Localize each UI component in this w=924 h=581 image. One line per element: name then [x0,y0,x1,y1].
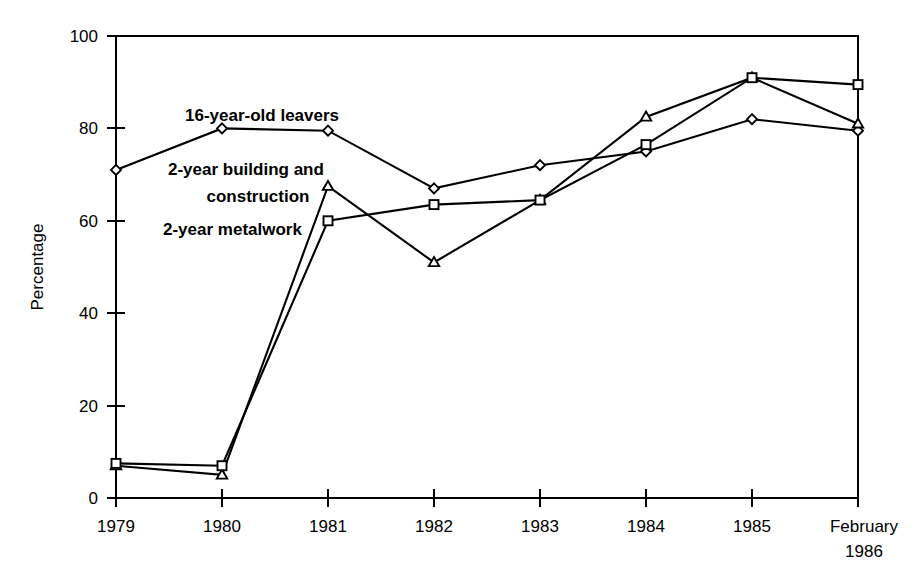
x-tick-label-1984: 1984 [627,517,665,536]
y-tick-label-100: 100 [70,27,98,46]
data-point-triangle-1984 [641,112,651,121]
annotation-2-year-metalwork: 2-year metalwork [163,220,302,239]
x-tick-label-february-1986-year: 1986 [845,542,883,561]
y-tick-label-80: 80 [79,119,98,138]
data-point-diamond-1982 [429,183,439,193]
chart-container: 0 20 40 60 80 100 Percentage 1979 1980 1… [0,0,924,581]
data-point-square-1982 [430,200,439,209]
data-point-square-1981 [324,216,333,225]
x-tick-label-1979: 1979 [97,517,135,536]
y-tick-label-60: 60 [79,212,98,231]
series-markers-2-year-building-and-construction [111,72,863,478]
annotation-2-year-building-and-line2: construction [207,187,310,206]
data-point-square-1983 [536,196,545,205]
data-point-diamond-1981 [323,126,333,136]
series-annotations: 16-year-old leavers 2-year building and … [163,106,339,239]
series-2-year-building-and-construction [111,72,863,478]
data-point-square-1979 [112,459,121,468]
y-axis-title: Percentage [28,224,47,311]
data-point-square-1985 [748,73,757,82]
data-point-diamond-1979 [111,165,121,175]
series-2-year-metalwork [112,73,863,470]
x-tick-label-1980: 1980 [203,517,241,536]
data-point-triangle-february-1986 [853,119,863,128]
data-point-square-february-1986 [854,80,863,89]
data-point-square-1984 [642,140,651,149]
data-point-diamond-1983 [535,160,545,170]
x-tick-label-1982: 1982 [415,517,453,536]
x-tick-label-february-1986: February [830,517,899,536]
x-tick-label-1985: 1985 [733,517,771,536]
y-tick-label-0: 0 [89,489,98,508]
annotation-2-year-building-and-line1: 2-year building and [168,160,324,179]
annotation-16-year-old-leavers: 16-year-old leavers [185,106,339,125]
data-point-triangle-1982 [429,257,439,266]
line-chart-figure: 0 20 40 60 80 100 Percentage 1979 1980 1… [0,0,924,581]
series-16-year-old-leavers [111,114,863,193]
y-tick-label-40: 40 [79,304,98,323]
x-tick-label-1983: 1983 [521,517,559,536]
series-markers-2-year-metalwork [112,73,863,470]
series-line-2-year-metalwork [116,78,858,466]
data-point-triangle-1981 [323,181,333,190]
data-point-square-1980 [218,461,227,470]
y-axis-tick-labels: 0 20 40 60 80 100 [70,27,98,508]
x-axis-tick-labels: 1979 1980 1981 1982 1983 1984 1985 Febru… [97,517,898,561]
y-tick-label-20: 20 [79,397,98,416]
series-line-2-year-building-and-construction [116,78,858,475]
data-point-diamond-1985 [747,114,757,124]
x-tick-label-1981: 1981 [309,517,347,536]
series-markers-16-year-old-leavers [111,114,863,193]
